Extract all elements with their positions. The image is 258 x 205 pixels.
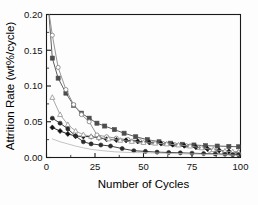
series-4-marker-4: [81, 140, 85, 144]
series-cu15al-di-550: [50, 95, 241, 154]
x-tick-label-4: 100: [233, 161, 249, 172]
series-4-marker-5: [89, 142, 93, 146]
series-4-marker-6: [99, 143, 103, 147]
series-cu17al-wi-550: [49, 11, 241, 156]
series-1-marker-4: [79, 113, 83, 117]
series-4-marker-16: [213, 152, 217, 156]
y-tick-label-1: 0.05: [24, 116, 43, 127]
y-tick-label-4: 0.20: [24, 9, 43, 20]
series-4-marker-3: [74, 134, 78, 138]
series-0-marker-9: [122, 131, 126, 135]
series-4-marker-0: [50, 116, 54, 120]
series-4-marker-14: [190, 151, 194, 155]
series-1-marker-3: [72, 103, 76, 107]
x-axis-title: Number of Cycles: [98, 178, 190, 190]
series-0-marker-10: [134, 135, 138, 139]
series-0-marker-7: [103, 124, 107, 128]
series-4-marker-2: [66, 127, 70, 131]
series-4-marker-7: [108, 144, 112, 148]
series-line-0: [49, 11, 239, 147]
series-0-marker-17: [215, 144, 219, 148]
y-tick-label-3: 0.15: [24, 45, 43, 56]
y-tick-label-2: 0.10: [24, 80, 43, 91]
series-0-marker-18: [227, 144, 231, 148]
y-tick-label-0: 0.00: [24, 152, 43, 163]
series-cu13al-c: [49, 11, 241, 149]
chart-canvas: 0.000.050.100.150.200255075100Number of …: [0, 0, 258, 205]
series-0-marker-6: [95, 121, 99, 125]
series-2-marker-0: [50, 125, 55, 130]
series-2-marker-2: [65, 131, 70, 136]
series-4-marker-12: [167, 150, 171, 154]
series-3-marker-0: [50, 95, 55, 100]
series-1-marker-1: [56, 65, 60, 69]
series-4-marker-13: [178, 151, 182, 155]
series-4-marker-8: [120, 147, 124, 151]
series-0-marker-1: [56, 76, 60, 80]
series-4-marker-17: [223, 152, 227, 156]
series-3-marker-5: [89, 134, 94, 139]
series-4-marker-19: [237, 153, 241, 157]
x-tick-label-1: 25: [90, 161, 101, 172]
series-4-marker-11: [155, 150, 159, 154]
y-axis-title: Attrition Rate (wt%/cycle): [4, 22, 16, 151]
series-3-marker-1: [58, 112, 63, 117]
series-2-marker-1: [58, 128, 63, 133]
series-4-marker-15: [202, 152, 206, 156]
series-1-marker-5: [87, 120, 91, 124]
series-0-marker-8: [112, 128, 116, 132]
series-0-marker-19: [237, 145, 241, 149]
x-tick-label-0: 0: [44, 161, 49, 172]
series-3-marker-4: [81, 132, 86, 137]
x-tick-label-3: 75: [187, 161, 198, 172]
series-1-marker-2: [64, 88, 68, 92]
x-tick-label-2: 50: [138, 161, 149, 172]
series-4-marker-1: [58, 121, 62, 125]
series-1-marker-0: [50, 33, 54, 37]
series-0-marker-0: [50, 56, 54, 60]
attrition-rate-chart: 0.000.050.100.150.200255075100Number of …: [0, 0, 258, 205]
